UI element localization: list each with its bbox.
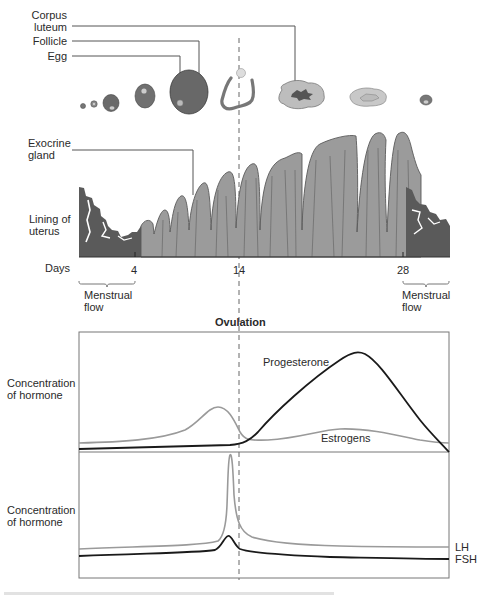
lining-label-line1: Lining of xyxy=(29,213,71,225)
day-tick-14: 14 xyxy=(233,264,245,276)
mature-follicle-icon xyxy=(170,70,208,114)
day-tick-28: 28 xyxy=(397,264,409,276)
uterine-lining xyxy=(79,132,450,257)
days-label: Days xyxy=(45,262,70,274)
egg-leader xyxy=(72,56,180,104)
exocrine-gland-leader xyxy=(72,150,193,195)
menstrual-right-line2: flow xyxy=(402,301,450,313)
menstrual-left-line1: Menstrual xyxy=(84,289,132,301)
lh-label: LH xyxy=(455,541,469,553)
lining-label-line2: uterus xyxy=(29,225,71,237)
menstrual-tissue-right xyxy=(406,187,450,257)
corpus-luteum-label-line1: Corpus xyxy=(14,9,67,21)
lh-curve xyxy=(79,455,449,549)
mature-egg-icon xyxy=(177,100,183,106)
progesterone-label: Progesterone xyxy=(263,356,329,368)
menstrual-brace-left xyxy=(79,281,135,287)
menstrual-right-line1: Menstrual xyxy=(402,289,450,301)
new-follicle-egg-icon xyxy=(424,100,429,104)
lower-chart-ylabel: Concentration of hormone xyxy=(7,504,75,528)
upper-ylabel-text: Concentration of hormone xyxy=(7,377,75,401)
menstrual-left-line2: flow xyxy=(84,301,132,313)
fsh-label: FSH xyxy=(455,553,477,565)
ruptured-follicle-icon xyxy=(222,78,254,109)
antral-egg-icon xyxy=(141,88,146,93)
menstrual-flow-left-label: Menstrual flow xyxy=(84,289,132,313)
primary-egg-icon xyxy=(93,103,95,105)
exocrine-gland-label: Exocrine gland xyxy=(28,137,71,161)
egg-label: Egg xyxy=(14,50,67,62)
released-egg-icon xyxy=(237,69,246,78)
menstrual-brace-right xyxy=(403,281,449,287)
corpus-luteum-label-line2: luteum xyxy=(14,21,67,33)
antral-follicle-icon xyxy=(135,84,155,108)
follicle-label: Follicle xyxy=(14,35,67,47)
corpus-luteum-label: Corpus luteum xyxy=(14,9,67,33)
secondary-egg-icon xyxy=(110,106,115,110)
chart-frame xyxy=(79,332,449,578)
follicle-stages xyxy=(81,69,433,115)
estrogens-label: Estrogens xyxy=(321,432,371,444)
exocrine-label-line1: Exocrine xyxy=(28,137,71,149)
hormone-charts xyxy=(79,332,449,578)
primordial-follicle-icon xyxy=(81,104,86,109)
ovulation-label: Ovulation xyxy=(215,316,266,328)
exocrine-label-line2: gland xyxy=(28,149,71,161)
lower-ylabel-text: Concentration of hormone xyxy=(7,504,75,528)
lining-of-uterus-label: Lining of uterus xyxy=(29,213,71,237)
day-tick-4: 4 xyxy=(131,264,137,276)
upper-chart-ylabel: Concentration of hormone xyxy=(7,377,75,401)
menstrual-flow-right-label: Menstrual flow xyxy=(402,289,450,313)
